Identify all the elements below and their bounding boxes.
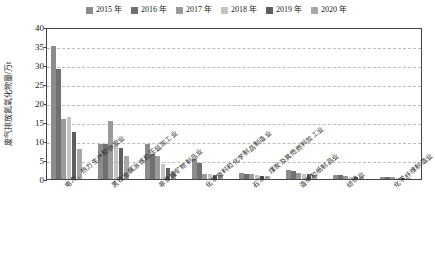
y-axis-tick-label: 20 bbox=[18, 100, 44, 109]
y-axis-tick-mark bbox=[44, 104, 47, 105]
y-axis-tick-mark bbox=[44, 180, 47, 181]
y-axis-title-text: 废气排放氮氧化物量/万t bbox=[4, 62, 14, 146]
bar[interactable] bbox=[296, 173, 301, 179]
legend-swatch-icon bbox=[266, 7, 273, 14]
legend-label: 2016 年 bbox=[141, 6, 167, 14]
bar[interactable] bbox=[385, 177, 390, 179]
legend-label: 2015 年 bbox=[96, 6, 122, 14]
legend-swatch-icon bbox=[131, 7, 138, 14]
legend-swatch-icon bbox=[176, 7, 183, 14]
legend-item[interactable]: 2015 年 bbox=[86, 6, 122, 14]
y-axis-tick-label: 15 bbox=[18, 119, 44, 128]
y-axis-tick-mark bbox=[44, 85, 47, 86]
y-axis-tick-mark bbox=[44, 123, 47, 124]
bar[interactable] bbox=[380, 177, 385, 179]
bar[interactable] bbox=[61, 119, 66, 179]
bar[interactable] bbox=[338, 175, 343, 179]
y-axis-tick-label: 25 bbox=[18, 81, 44, 90]
legend-label: 2018 年 bbox=[231, 6, 257, 14]
legend-swatch-icon bbox=[221, 7, 228, 14]
legend-swatch-icon bbox=[311, 7, 318, 14]
legend-label: 2019 年 bbox=[276, 6, 302, 14]
legend-swatch-icon bbox=[86, 7, 93, 14]
legend-item[interactable]: 2017 年 bbox=[176, 6, 212, 14]
bar[interactable] bbox=[56, 69, 61, 179]
bar[interactable] bbox=[390, 177, 395, 179]
y-axis-tick-mark bbox=[44, 66, 47, 67]
bar[interactable] bbox=[343, 176, 348, 179]
y-axis-tick-labels: 0510152025303540 bbox=[14, 28, 44, 180]
bar[interactable] bbox=[67, 117, 72, 179]
chart-legend: 2015 年2016 年2017 年2018 年2019 年2020 年 bbox=[0, 6, 433, 14]
y-axis-tick-mark bbox=[44, 161, 47, 162]
x-axis-category-labels: 电力、热力生产和供应业黑色金属冶炼和压延加工业非金属矿物制品业化学原料和化学制品… bbox=[0, 181, 433, 269]
bar[interactable] bbox=[244, 174, 249, 179]
bar[interactable] bbox=[249, 174, 254, 179]
bar[interactable] bbox=[51, 46, 56, 179]
y-axis-tick-mark bbox=[44, 28, 47, 29]
y-axis-tick-label: 5 bbox=[18, 157, 44, 166]
bar-group bbox=[380, 29, 411, 179]
bar[interactable] bbox=[286, 170, 291, 179]
legend-label: 2017 年 bbox=[186, 6, 212, 14]
bar[interactable] bbox=[197, 163, 202, 179]
legend-item[interactable]: 2018 年 bbox=[221, 6, 257, 14]
y-axis-tick-label: 10 bbox=[18, 138, 44, 147]
bar[interactable] bbox=[155, 156, 160, 179]
bar-group bbox=[51, 29, 82, 179]
y-axis-tick-mark bbox=[44, 47, 47, 48]
legend-item[interactable]: 2016 年 bbox=[131, 6, 167, 14]
bar[interactable] bbox=[333, 175, 338, 179]
y-axis-tick-label: 35 bbox=[18, 43, 44, 52]
y-axis-tick-label: 30 bbox=[18, 62, 44, 71]
legend-item[interactable]: 2019 年 bbox=[266, 6, 302, 14]
legend-label: 2020 年 bbox=[321, 6, 347, 14]
bar[interactable] bbox=[291, 171, 296, 179]
y-axis-tick-mark bbox=[44, 142, 47, 143]
legend-item[interactable]: 2020 年 bbox=[311, 6, 347, 14]
bar[interactable] bbox=[202, 174, 207, 179]
bar[interactable] bbox=[239, 173, 244, 179]
y-axis-tick-label: 40 bbox=[18, 24, 44, 33]
